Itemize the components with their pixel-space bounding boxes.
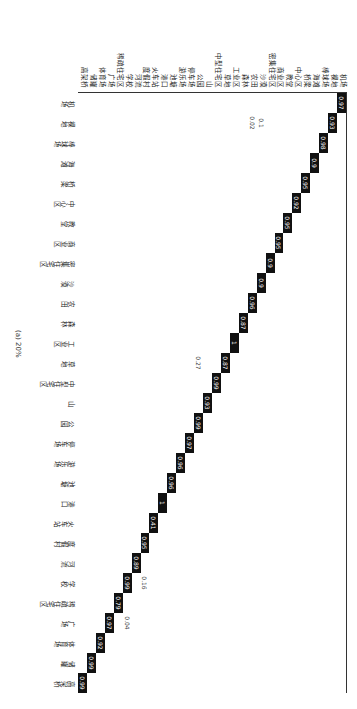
diagonal-cell: 0.89 — [132, 553, 141, 573]
row-label: 山 — [204, 0, 213, 88]
row-label: 棒球场 — [320, 0, 329, 88]
row-label: 密集住宅区 — [267, 0, 276, 88]
diagonal-cell: 0.92 — [292, 193, 301, 213]
column-label: 停车场 — [54, 438, 75, 447]
column-label: 学校 — [61, 578, 75, 587]
diagonal-cell: 0.41 — [149, 513, 158, 533]
column-label: 中心区 — [54, 198, 75, 207]
column-label: 密集住宅区 — [40, 258, 75, 267]
diagonal-cell: 0.9 — [310, 153, 319, 173]
column-label: 度假村 — [54, 538, 75, 547]
row-label: 度假村 — [142, 0, 151, 88]
row-label: 停车场 — [186, 0, 195, 88]
column-label: 教堂 — [61, 218, 75, 227]
diagonal-cell: 0.92 — [96, 633, 105, 653]
column-label: 储罐 — [61, 658, 75, 667]
row-label: 火车站 — [150, 0, 159, 88]
confusion-matrix-rotated: 机场裸地棒球场海滩桥梁中心区教堂商业区密集住宅区沙漠农田森林工业区草地中型住宅区… — [0, 0, 357, 709]
row-label: 中型住宅区 — [213, 0, 222, 88]
off-diagonal-cell: 0.02 — [248, 113, 257, 133]
row-label: 游乐场 — [177, 0, 186, 88]
diagonal-cell: 0.97 — [185, 433, 194, 453]
row-label: 工业区 — [231, 0, 240, 88]
diagonal-cell: 0.96 — [176, 453, 185, 473]
off-diagonal-cell: 0.27 — [194, 353, 203, 373]
column-label: 池塘 — [61, 478, 75, 487]
column-label: 山 — [68, 398, 75, 407]
diagonal-cell: 0.95 — [283, 213, 292, 233]
column-label: 草地 — [61, 358, 75, 367]
row-label: 体育场 — [97, 0, 106, 88]
diagonal-cell: 0.93 — [203, 393, 212, 413]
diagonal-cell: 0.79 — [114, 593, 123, 613]
diagonal-cell: 0.87 — [221, 353, 230, 373]
row-label: 公园 — [195, 0, 204, 88]
row-label: 森林 — [240, 0, 249, 88]
diagonal-cell: 0.87 — [239, 313, 248, 333]
row-label: 农田 — [249, 0, 258, 88]
column-label: 机场 — [61, 98, 75, 107]
column-label: 沙漠 — [61, 278, 75, 287]
row-label: 河流 — [133, 0, 142, 88]
column-label: 河流 — [61, 558, 75, 567]
off-diagonal-cell: 0.1 — [257, 113, 266, 133]
column-label: 工业区 — [54, 338, 75, 347]
diagonal-cell: 0.97 — [105, 613, 114, 633]
diagonal-cell: 0.99 — [212, 373, 221, 393]
row-label: 储罐 — [88, 0, 97, 88]
diagonal-cell: 0.99 — [194, 413, 203, 433]
column-label: 广场 — [61, 618, 75, 627]
diagonal-cell: 0.95 — [301, 173, 310, 193]
row-label: 稀疏住宅区 — [115, 0, 124, 88]
column-label: 商业区 — [54, 238, 75, 247]
column-label: 棒球场 — [54, 138, 75, 147]
diagonal-cell: 1 — [230, 333, 239, 353]
matrix-plot: 0.970.930.980.90.950.920.950.950.90.90.9… — [78, 92, 347, 693]
diagonal-cell: 1 — [158, 493, 167, 513]
column-label: 高架桥 — [54, 678, 75, 687]
column-label: 裸地 — [61, 118, 75, 127]
diagonal-cell: 0.98 — [319, 133, 328, 153]
row-label: 教堂 — [284, 0, 293, 88]
column-label: 海滩 — [61, 158, 75, 167]
diagonal-cell: 0.96 — [167, 473, 176, 493]
diagonal-cell: 0.95 — [275, 233, 284, 253]
row-label: 裸地 — [329, 0, 338, 88]
off-diagonal-cell: 0.16 — [141, 573, 150, 593]
row-label: 池塘 — [168, 0, 177, 88]
column-label: 体育场 — [54, 638, 75, 647]
diagonal-cell: 0.99 — [87, 653, 96, 673]
diagonal-cell: 0.99 — [78, 673, 87, 693]
row-label: 商业区 — [276, 0, 285, 88]
row-label: 海滩 — [311, 0, 320, 88]
column-label: 农田 — [61, 298, 75, 307]
row-label: 桥梁 — [302, 0, 311, 88]
row-label: 中心区 — [293, 0, 302, 88]
column-label: 稀疏住宅区 — [40, 598, 75, 607]
column-label: 公园 — [61, 418, 75, 427]
column-label: 中型住宅区 — [40, 378, 75, 387]
column-label: 游乐场 — [54, 458, 75, 467]
off-diagonal-cell: 0.04 — [123, 613, 132, 633]
row-label: 机场 — [338, 0, 347, 88]
row-label: 沙漠 — [258, 0, 267, 88]
caption: (a) 20% — [14, 330, 22, 358]
row-label: 港口 — [159, 0, 168, 88]
diagonal-cell: 0.97 — [337, 93, 346, 113]
column-label: 港口 — [61, 498, 75, 507]
row-label: 高架桥 — [79, 0, 88, 88]
column-label: 火车站 — [54, 518, 75, 527]
diagonal-cell: 0.9 — [266, 253, 275, 273]
diagonal-cell: 0.99 — [123, 573, 132, 593]
diagonal-cell: 0.9 — [257, 273, 266, 293]
column-label: 森林 — [61, 318, 75, 327]
row-label: 广场 — [106, 0, 115, 88]
diagonal-cell: 0.96 — [248, 293, 257, 313]
diagonal-cell: 0.95 — [141, 533, 150, 553]
column-label: 桥梁 — [61, 178, 75, 187]
row-label: 草地 — [222, 0, 231, 88]
row-label: 学校 — [124, 0, 133, 88]
diagonal-cell: 0.93 — [328, 113, 337, 133]
